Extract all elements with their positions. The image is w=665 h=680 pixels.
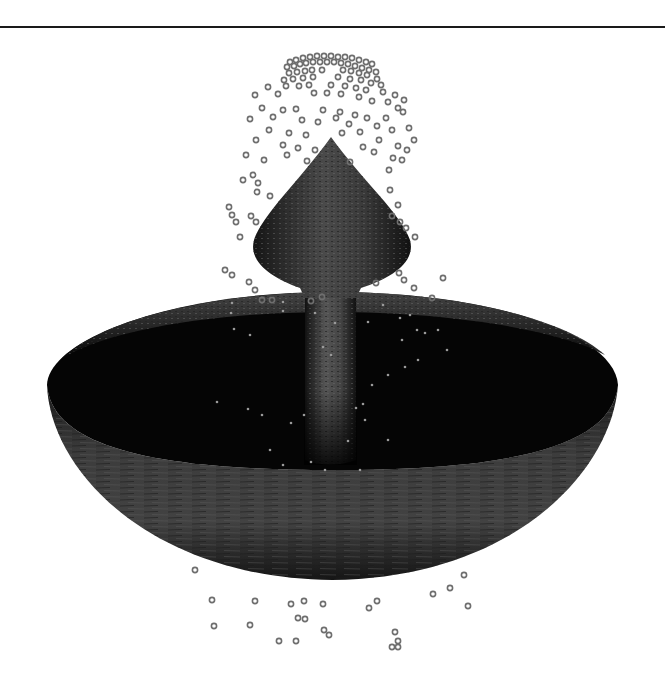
water-particle <box>209 597 214 602</box>
water-particle <box>294 69 299 74</box>
water-particle <box>359 469 362 472</box>
water-particle <box>401 339 404 342</box>
water-particle <box>282 301 285 304</box>
water-particle <box>267 193 272 198</box>
water-particle <box>392 92 397 97</box>
water-particle <box>403 225 408 230</box>
water-particle <box>378 82 383 87</box>
water-particle <box>299 117 304 122</box>
water-particle <box>255 180 260 185</box>
water-particle <box>335 54 340 59</box>
water-particle <box>345 61 350 66</box>
water-particle <box>355 407 358 410</box>
water-particle <box>389 644 394 649</box>
water-particle <box>338 60 343 65</box>
water-particle <box>383 115 388 120</box>
water-particle <box>348 68 353 73</box>
water-particle <box>395 105 400 110</box>
water-particle <box>249 334 252 337</box>
water-particle <box>247 408 250 411</box>
fountain-scene <box>0 0 665 680</box>
water-particle <box>342 83 347 88</box>
water-particle <box>333 115 338 120</box>
water-particle <box>312 147 317 152</box>
water-particle <box>335 74 340 79</box>
water-particle <box>226 204 231 209</box>
water-particle <box>446 349 449 352</box>
water-particle <box>290 422 293 425</box>
water-particle <box>254 189 259 194</box>
water-particle <box>192 567 197 572</box>
water-particle <box>282 310 285 313</box>
water-particle <box>364 115 369 120</box>
water-particle <box>369 98 374 103</box>
water-particle <box>229 212 234 217</box>
water-particle <box>281 77 286 82</box>
water-particle <box>243 152 248 157</box>
water-particle <box>231 302 234 305</box>
water-particle <box>284 64 289 69</box>
water-particle <box>461 572 466 577</box>
water-particle <box>406 125 411 130</box>
water-particle <box>311 90 316 95</box>
water-particle <box>349 55 354 60</box>
water-particle <box>357 129 362 134</box>
water-particle <box>338 91 343 96</box>
water-particle <box>347 76 352 81</box>
water-particle <box>286 130 291 135</box>
water-particle <box>252 287 257 292</box>
water-particle <box>367 321 370 324</box>
water-particle <box>339 130 344 135</box>
water-particle <box>353 85 358 90</box>
water-particle <box>293 106 298 111</box>
water-particle <box>309 67 314 72</box>
water-particle <box>297 61 302 66</box>
water-particle <box>252 598 257 603</box>
water-particle <box>240 177 245 182</box>
water-particle <box>324 469 327 472</box>
water-particle <box>387 374 390 377</box>
water-particle <box>259 105 264 110</box>
water-particle <box>409 314 412 317</box>
water-particle <box>303 414 306 417</box>
water-particle <box>216 401 219 404</box>
water-particle <box>319 67 324 72</box>
water-particle <box>366 605 371 610</box>
water-particle <box>310 74 315 79</box>
water-particle <box>404 366 407 369</box>
water-particle <box>389 127 394 132</box>
water-particle <box>248 213 253 218</box>
water-particle <box>252 92 257 97</box>
water-particle <box>222 267 227 272</box>
water-particle <box>376 137 381 142</box>
water-particle <box>347 440 350 443</box>
water-particle <box>395 638 400 643</box>
water-particle <box>356 94 361 99</box>
water-particle <box>330 354 333 357</box>
water-particle <box>286 70 291 75</box>
water-particle <box>371 149 376 154</box>
water-particle <box>328 53 333 58</box>
water-particle <box>324 59 329 64</box>
water-particle <box>430 591 435 596</box>
water-particle <box>371 384 374 387</box>
water-particle <box>369 61 374 66</box>
water-particle <box>295 615 300 620</box>
water-particle <box>363 87 368 92</box>
water-particle <box>266 127 271 132</box>
water-particle <box>346 121 351 126</box>
water-particle <box>321 53 326 58</box>
water-particle <box>447 585 452 590</box>
water-particle <box>291 63 296 68</box>
water-particle <box>400 109 405 114</box>
water-particle <box>395 202 400 207</box>
water-particle <box>211 623 216 628</box>
water-particle <box>412 234 417 239</box>
water-particle <box>363 59 368 64</box>
water-particle <box>324 90 329 95</box>
water-particle <box>302 68 307 73</box>
water-particle <box>352 112 357 117</box>
water-particle <box>387 439 390 442</box>
water-particle <box>382 304 385 307</box>
water-particle <box>310 59 315 64</box>
